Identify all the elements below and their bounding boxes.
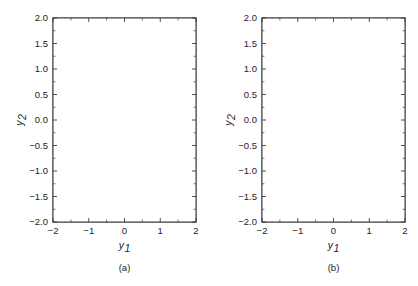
- panel-a-plot: −2.0−1.5−1.0−0.50.00.51.01.52.0−2−1012y1…: [0, 0, 209, 286]
- x-tick-label: 1: [158, 225, 163, 236]
- panel-caption: (a): [119, 262, 131, 273]
- plot-frame: [53, 18, 196, 222]
- panel-b: −2.0−1.5−1.0−0.50.00.51.01.52.0−2−1012y1…: [209, 0, 418, 286]
- y-tick-label: 1.0: [35, 63, 48, 74]
- y-tick-label: −1.5: [29, 191, 48, 202]
- x-tick-label: 2: [193, 225, 198, 236]
- panel-caption: (b): [328, 262, 340, 273]
- plot-frame: [262, 18, 405, 222]
- x-tick-label: −2: [48, 225, 59, 236]
- x-axis-label: y1: [118, 239, 131, 254]
- y-tick-label: −2.0: [29, 216, 48, 227]
- y-tick-label: 0.0: [35, 114, 48, 125]
- x-tick-label: −2: [257, 225, 268, 236]
- x-axis-label: y1: [327, 239, 340, 254]
- y-tick-label: −1.0: [238, 165, 257, 176]
- x-tick-label: 1: [367, 225, 372, 236]
- y-tick-label: 0.0: [244, 114, 257, 125]
- y-tick-label: −0.5: [238, 140, 257, 151]
- x-tick-label: 0: [122, 225, 127, 236]
- x-tick-label: −1: [83, 225, 94, 236]
- y-tick-label: −2.0: [238, 216, 257, 227]
- y-tick-label: −1.0: [29, 165, 48, 176]
- y-tick-label: 0.5: [244, 89, 257, 100]
- x-tick-label: 2: [402, 225, 407, 236]
- panel-a: −2.0−1.5−1.0−0.50.00.51.01.52.0−2−1012y1…: [0, 0, 209, 286]
- y-tick-label: −1.5: [238, 191, 257, 202]
- y-axis-label: y2: [222, 114, 237, 127]
- x-tick-label: −1: [292, 225, 303, 236]
- y-tick-label: 2.0: [35, 12, 48, 23]
- panel-b-plot: −2.0−1.5−1.0−0.50.00.51.01.52.0−2−1012y1…: [209, 0, 418, 286]
- phase-portrait-figure: −2.0−1.5−1.0−0.50.00.51.01.52.0−2−1012y1…: [0, 0, 418, 286]
- y-tick-label: 0.5: [35, 89, 48, 100]
- y-tick-label: 1.0: [244, 63, 257, 74]
- y-tick-label: −0.5: [29, 140, 48, 151]
- x-tick-label: 0: [331, 225, 336, 236]
- y-tick-label: 1.5: [35, 38, 48, 49]
- y-tick-label: 1.5: [244, 38, 257, 49]
- y-tick-label: 2.0: [244, 12, 257, 23]
- y-axis-label: y2: [13, 114, 28, 127]
